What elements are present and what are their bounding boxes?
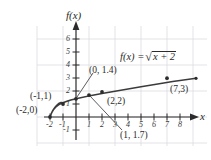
y-tick-4: 4 bbox=[66, 61, 70, 69]
radicand: x + 2 bbox=[152, 51, 176, 63]
y-axis bbox=[73, 21, 80, 140]
y-axis-label: f(x) bbox=[66, 10, 81, 21]
plot-canvas bbox=[0, 0, 211, 160]
x-tick-7: 7 bbox=[165, 121, 169, 129]
y-tick-6: 6 bbox=[66, 35, 70, 43]
point-label-0-1.4: (0, 1.4) bbox=[89, 66, 117, 76]
x-tick-neg2: -2 bbox=[46, 121, 53, 129]
y-tick-1: 1 bbox=[66, 100, 70, 108]
x-tick-4: 4 bbox=[126, 121, 130, 129]
x-tick-1: 1 bbox=[87, 121, 91, 129]
point-label-neg1-1: (-1,1) bbox=[30, 92, 51, 102]
graph-figure: f(x) x 6 5 4 3 2 1 -1 -2 -1 1 2 3 4 5 6 … bbox=[0, 0, 211, 160]
x-tick-neg1: -1 bbox=[59, 121, 66, 129]
point-label-1-1.7: (1, 1.7) bbox=[120, 131, 148, 141]
x-tick-6: 6 bbox=[152, 121, 156, 129]
point-label-7-3: (7,3) bbox=[170, 85, 188, 95]
x-axis bbox=[44, 114, 199, 121]
x-axis-label: x bbox=[200, 111, 205, 122]
point-label-neg2-0: (-2,0) bbox=[16, 106, 37, 116]
radical-sign-icon: √ bbox=[145, 50, 152, 64]
y-tick-3: 3 bbox=[66, 74, 70, 82]
equation-lhs: f(x) = bbox=[120, 51, 144, 62]
x-tick-5: 5 bbox=[139, 121, 143, 129]
x-tick-8: 8 bbox=[178, 121, 182, 129]
point-label-2-2: (2,2) bbox=[107, 97, 125, 107]
equation-annotation: f(x) =√x + 2 bbox=[120, 50, 176, 63]
radical-group: √x + 2 bbox=[144, 50, 176, 63]
y-tick-5: 5 bbox=[66, 48, 70, 56]
x-tick-3: 3 bbox=[113, 121, 117, 129]
y-tick-2: 2 bbox=[66, 87, 70, 95]
x-tick-2: 2 bbox=[100, 121, 104, 129]
